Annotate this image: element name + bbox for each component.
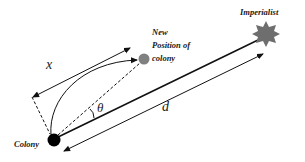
- colony-label: Colony: [14, 139, 39, 149]
- assimilation-diagram: Colony New Position of colony Imperialis…: [0, 0, 305, 162]
- imperialist-label: Imperialist: [240, 7, 278, 17]
- diagram-canvas: [0, 0, 305, 162]
- theta-angle-arc: [90, 109, 94, 118]
- theta-variable-label: θ: [97, 100, 103, 116]
- new-position-dot: [139, 54, 150, 65]
- colony-dot: [48, 134, 61, 147]
- x-variable-label: x: [46, 57, 52, 73]
- dashed-movement-line: [58, 63, 140, 135]
- d-variable-label: d: [162, 99, 169, 115]
- new-position-label-line1: New: [152, 27, 168, 37]
- dashed-perpendicular: [32, 97, 50, 134]
- movement-arc: [51, 60, 137, 135]
- new-position-label-line3: colony: [152, 53, 175, 63]
- imperialist-star-icon: [252, 21, 280, 47]
- new-position-label-line2: Position of: [152, 40, 190, 50]
